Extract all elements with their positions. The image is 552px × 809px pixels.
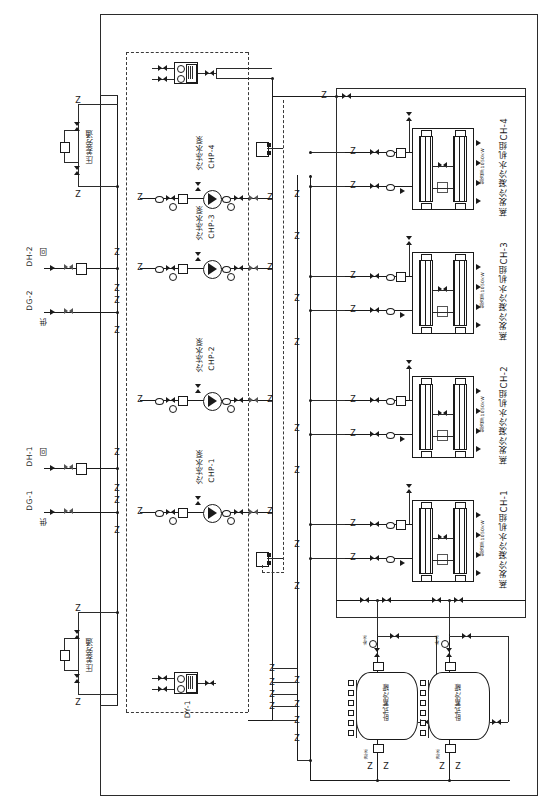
pump1-tag: CHP-1 — [208, 458, 216, 483]
top-feed-valve[interactable] — [342, 93, 351, 100]
pump-chp3[interactable] — [203, 260, 222, 279]
mid-c-node-2 — [309, 759, 312, 762]
chiller-ch3-outlet-valve[interactable] — [370, 307, 379, 314]
hx-bot-outlet-valve[interactable] — [205, 680, 214, 687]
chiller-ch4-feed-node — [309, 151, 312, 154]
pump4-valve-in[interactable] — [166, 195, 175, 202]
tank-2-diffuser-4 — [420, 710, 426, 716]
chiller-ch4-air-arrow-1 — [476, 140, 481, 146]
chiller-ch2-top-port — [421, 378, 432, 385]
mid-header-c — [310, 175, 311, 760]
pump1-check-valve[interactable] — [249, 509, 258, 516]
chiller-ch1-outlet-valve[interactable] — [370, 555, 379, 562]
pump3-gauge-out — [227, 273, 235, 281]
top-feed-drop — [336, 96, 337, 114]
pump2-check-valve[interactable] — [249, 397, 258, 404]
pump4-vent-valve[interactable] — [195, 182, 202, 191]
mid-check-6: Z — [293, 466, 301, 475]
chiller-ch2-vent-riser — [409, 368, 410, 400]
top-feed-z1: Z — [320, 91, 328, 100]
pump1-valve-out[interactable] — [234, 509, 243, 516]
chiller-ch1-inlet-flex — [386, 522, 395, 529]
envelope-bottom-link — [248, 720, 272, 721]
chiller-ch3-return-node — [309, 309, 312, 312]
signal-box-top-dot-a — [267, 143, 271, 147]
tank-1-top-branch-valve[interactable] — [390, 633, 399, 640]
pump3-flex-in — [155, 266, 164, 273]
pump3-label: 冷冻水泵 — [196, 206, 204, 240]
pump2-valve-in[interactable] — [166, 397, 175, 404]
bottom-left-tie-1 — [272, 668, 297, 669]
chiller-bank-header-valve-1[interactable] — [360, 597, 369, 604]
hx-bot-valve-b[interactable] — [158, 686, 167, 693]
mid-check-12: Z — [293, 734, 301, 743]
tank-2-top-fitting — [445, 662, 456, 671]
pump-chp1[interactable] — [203, 504, 222, 523]
chiller-ch2-return — [310, 434, 345, 435]
chiller-ch4-outlet-valve[interactable] — [370, 183, 379, 190]
tank-2-bottom-check-b: Z — [454, 762, 462, 771]
bypass-bot-valve-upper[interactable] — [74, 630, 81, 639]
tank-2-bottom-fitting — [445, 744, 456, 753]
chiller-ch3-feed — [310, 276, 345, 277]
chiller-ch3-outlet-flex — [386, 308, 395, 315]
main-dg2-label: 供 — [40, 318, 48, 326]
bypass-top-valve-lower[interactable] — [74, 166, 81, 175]
pump1-valve-in[interactable] — [166, 509, 175, 516]
main-dh1-valve[interactable] — [64, 464, 73, 471]
chiller-ch3-return — [310, 310, 345, 311]
chiller-ch2-outlet-valve[interactable] — [370, 431, 379, 438]
bypass-bot-branch-2 — [78, 694, 118, 695]
main-dh2-valve[interactable] — [64, 264, 73, 271]
signal-box-bottom-dot-b — [267, 561, 271, 565]
hx-top-outlet-valve[interactable] — [205, 70, 214, 77]
chiller-ch3-air-arrow-1 — [476, 264, 481, 270]
pump2-vent-valve[interactable] — [195, 384, 202, 393]
tank-1-top-valve[interactable] — [374, 648, 381, 657]
pump3-vent-valve[interactable] — [195, 252, 202, 261]
chiller-ch4-inlet-valve[interactable] — [370, 149, 379, 156]
tank-1-top-note: 补水 — [364, 636, 368, 645]
chiller-bank-header-valve-3[interactable] — [432, 597, 441, 604]
pump3-check-valve[interactable] — [249, 265, 258, 272]
tank-2-top-gauge — [441, 640, 449, 648]
bypass-top-node — [116, 185, 119, 188]
pump3-valve-in[interactable] — [166, 265, 175, 272]
hx-top-valve-b[interactable] — [158, 76, 167, 83]
hx-top-valve-a[interactable] — [158, 65, 167, 72]
pump-chp4[interactable] — [203, 190, 222, 209]
riser-check-a5: Z — [113, 448, 121, 457]
bypass-top-control-valve[interactable] — [60, 142, 70, 153]
tank-2-top-branch-valve[interactable] — [462, 633, 471, 640]
chiller-ch2-return-node — [309, 433, 312, 436]
main-dg1-label: 供 — [40, 518, 48, 526]
chiller-ch2-inlet-valve[interactable] — [370, 397, 379, 404]
pump4-valve-out[interactable] — [234, 195, 243, 202]
pump4-check-valve[interactable] — [249, 195, 258, 202]
pump2-valve-out[interactable] — [234, 397, 243, 404]
main-dg1-valve[interactable] — [64, 508, 73, 515]
chiller-ch2-outlet-flex — [386, 432, 395, 439]
chiller-bank-header-valve-2[interactable] — [382, 597, 391, 604]
hx-top-to-header-b — [216, 78, 272, 79]
main-dg2-valve[interactable] — [64, 308, 73, 315]
tank-2-top-valve[interactable] — [446, 648, 453, 657]
chiller-bank-header-valve-4[interactable] — [454, 597, 463, 604]
pump-chp2[interactable] — [203, 392, 222, 411]
pump2-gauge-out — [227, 405, 235, 413]
mid-dashed-signal-line — [283, 100, 284, 570]
bypass-bot-control-valve[interactable] — [60, 650, 70, 661]
hx-bot-valve-a[interactable] — [158, 675, 167, 682]
tank-2-side-valve[interactable] — [492, 719, 501, 726]
pump1-vent-valve[interactable] — [195, 496, 202, 505]
chiller-ch4-condenser — [453, 136, 467, 202]
tank-1-diffuser-4 — [348, 710, 354, 716]
pump3-valve-out[interactable] — [234, 265, 243, 272]
bypass-top-valve-upper[interactable] — [74, 122, 81, 131]
chiller-ch3-inlet-valve[interactable] — [370, 273, 379, 280]
chiller-ch1-inlet-valve[interactable] — [370, 521, 379, 528]
chiller-ch4-link-bot — [433, 188, 453, 189]
chiller-ch2-inlet-flex — [386, 398, 395, 405]
bottom-left-tie-4 — [272, 706, 297, 707]
bypass-bot-valve-lower[interactable] — [74, 674, 81, 683]
